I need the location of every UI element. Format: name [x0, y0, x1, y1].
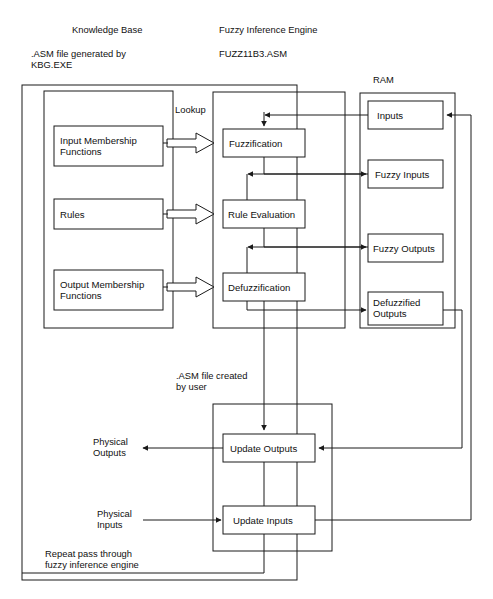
ram-box-defuzzified-outputs[interactable]: Defuzzified Outputs [368, 292, 443, 325]
engine-box-rule-evaluation[interactable]: Rule Evaluation [223, 200, 305, 228]
user-box-update-outputs[interactable]: Update Outputs [223, 434, 315, 462]
defuzzified-outputs-label-line2: Outputs [373, 308, 407, 319]
connector-defuzzified-outputs-to-update-outputs [319, 310, 462, 448]
ram-box-inputs[interactable]: Inputs [368, 101, 443, 129]
diagram-canvas: Knowledge Base .ASM file generated by KB… [0, 0, 493, 599]
engine-box-defuzzification[interactable]: Defuzzification [223, 273, 305, 301]
engine-box-fuzzification[interactable]: Fuzzification [223, 129, 305, 157]
physical-inputs-label-line2: Inputs [97, 519, 123, 530]
update-inputs-label: Update Inputs [233, 515, 293, 526]
knowledge-base-title: Knowledge Base [72, 24, 142, 35]
ram-box-fuzzy-outputs[interactable]: Fuzzy Outputs [368, 234, 443, 262]
block-arrow-input-membership-to-fuzzification [167, 133, 214, 153]
user-file-caption-line1: .ASM file created [176, 370, 247, 381]
user-file-caption-line2: by user [176, 381, 207, 392]
fuzzy-inputs-label: Fuzzy Inputs [375, 169, 430, 180]
fuzzification-label: Fuzzification [229, 138, 282, 149]
engine-file-name: FUZZ11B3.ASM [219, 48, 287, 59]
rule-evaluation-label: Rule Evaluation [228, 209, 295, 220]
knowledge-base-box-input-membership-functions[interactable]: Input Membership Functions [54, 126, 163, 166]
rules-label: Rules [60, 209, 85, 220]
defuzzified-outputs-label-line1: Defuzzified [373, 297, 420, 308]
ram-title: RAM [373, 74, 394, 85]
fuzzy-inference-diagram: Knowledge Base .ASM file generated by KB… [0, 0, 493, 599]
output-membership-functions-label-line1: Output Membership [60, 279, 144, 290]
knowledge-base-box-output-membership-functions[interactable]: Output Membership Functions [54, 270, 163, 310]
ram-box-fuzzy-inputs[interactable]: Fuzzy Inputs [368, 160, 443, 188]
block-arrow-output-membership-to-defuzzification [167, 277, 214, 297]
repeat-pass-label-line1: Repeat pass through [45, 548, 132, 559]
knowledge-base-subtitle-line2: KBG.EXE [31, 59, 72, 70]
knowledge-base-box-rules[interactable]: Rules [54, 199, 163, 229]
repeat-pass-label-line2: fuzzy inference engine [45, 559, 139, 570]
block-arrow-rules-to-rule-evaluation [167, 204, 214, 224]
knowledge-base-subtitle-line1: .ASM file generated by [31, 48, 126, 59]
output-membership-functions-label-line2: Functions [60, 290, 102, 301]
update-outputs-label: Update Outputs [230, 443, 297, 454]
input-membership-functions-label-line1: Input Membership [60, 135, 137, 146]
input-membership-functions-label-line2: Functions [60, 146, 102, 157]
defuzzification-label: Defuzzification [228, 282, 290, 293]
inputs-label: Inputs [377, 110, 403, 121]
lookup-label: Lookup [175, 104, 206, 115]
physical-outputs-label-line1: Physical [93, 436, 128, 447]
fuzzy-outputs-label: Fuzzy Outputs [373, 243, 435, 254]
physical-inputs-label-line1: Physical [97, 508, 132, 519]
user-box-update-inputs[interactable]: Update Inputs [223, 506, 315, 534]
physical-outputs-label-line2: Outputs [93, 447, 126, 458]
engine-title: Fuzzy Inference Engine [219, 24, 318, 35]
